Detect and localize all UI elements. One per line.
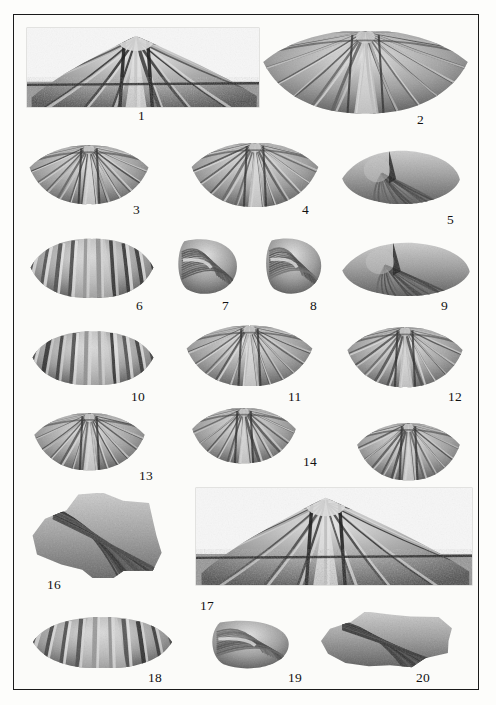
specimen-20-image [320,612,460,670]
specimen-5-image [341,145,461,207]
specimen-8-image [263,234,325,298]
specimen-16-image [30,493,175,578]
figure-number-4: 4 [302,203,309,217]
specimen-6-image [28,235,156,300]
figure-number-16: 16 [47,578,61,592]
specimen-16 [30,493,175,578]
figure-number-1: 1 [138,109,145,123]
specimen-10 [30,328,156,387]
figure-number-3: 3 [133,203,140,217]
specimen-10-image [30,328,156,387]
specimen-11 [184,322,315,388]
specimen-2-image [259,26,472,116]
figure-number-13: 13 [139,469,153,483]
specimen-17 [196,488,472,585]
specimen-1-image [27,28,259,107]
specimen-18-image [30,614,175,670]
specimen-17-image [196,488,472,585]
specimen-12-image [345,324,465,389]
specimen-19-image [208,617,294,672]
specimen-7-image [175,235,241,298]
figure-number-9: 9 [441,299,448,313]
specimen-19 [208,617,294,672]
specimen-3 [27,142,151,206]
specimen-15 [355,420,462,482]
specimen-20 [320,612,460,670]
specimen-2 [259,26,472,116]
specimen-9 [341,237,471,299]
figure-number-8: 8 [310,299,317,313]
figure-number-5: 5 [447,213,454,227]
specimen-13 [32,410,147,472]
specimen-3-image [27,142,151,206]
specimen-1 [27,28,259,107]
figure-number-19: 19 [288,671,302,685]
figure-number-11: 11 [288,390,302,404]
specimen-6 [28,235,156,300]
specimen-4 [189,139,321,209]
specimen-14 [190,405,298,465]
specimen-13-image [32,410,147,472]
specimen-5 [341,145,461,207]
specimen-4-image [189,139,321,209]
figure-number-14: 14 [303,455,317,469]
specimen-9-image [341,237,471,299]
figure-number-10: 10 [131,390,145,404]
figure-number-20: 20 [416,671,430,685]
specimen-12 [345,324,465,389]
figure-number-6: 6 [136,299,143,313]
figure-number-7: 7 [222,299,229,313]
figure-number-17: 17 [200,599,214,613]
specimen-8 [263,234,325,298]
specimen-14-image [190,405,298,465]
specimen-7 [175,235,241,298]
fossil-plate: 1234567891011121314151617181920 [0,0,496,705]
figure-number-2: 2 [417,113,424,127]
specimen-15-image [355,420,462,482]
figure-number-18: 18 [148,671,162,685]
specimen-18 [30,614,175,670]
figure-number-12: 12 [448,390,462,404]
specimen-11-image [184,322,315,388]
